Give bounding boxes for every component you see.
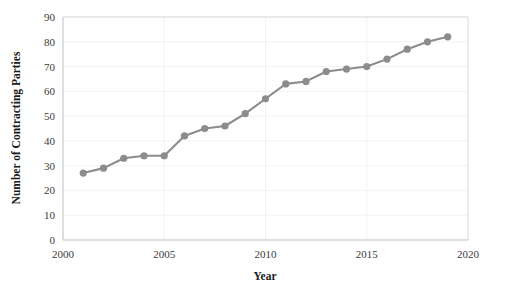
x-tick-label-2020: 2020 [457, 248, 480, 260]
y-tick-label-0: 0 [50, 234, 56, 246]
data-point-2006 [181, 132, 188, 139]
data-point-2005 [161, 152, 168, 159]
data-point-2013 [323, 68, 330, 75]
y-tick-label-90: 90 [44, 11, 56, 23]
data-point-2003 [120, 155, 127, 162]
y-tick-label-50: 50 [44, 110, 56, 122]
x-tick-label-2000: 2000 [52, 248, 75, 260]
x-axis-title: Year [254, 270, 277, 282]
y-tick-label-70: 70 [44, 61, 56, 73]
y-tick-label-60: 60 [44, 85, 56, 97]
line-chart: 0102030405060708090 20002005201020152020… [0, 0, 505, 292]
x-tick-label-2010: 2010 [255, 248, 278, 260]
data-point-2010 [262, 95, 269, 102]
data-point-2001 [80, 170, 87, 177]
data-point-2012 [302, 78, 309, 85]
x-tick-label-2015: 2015 [356, 248, 379, 260]
data-point-2015 [363, 63, 370, 70]
data-point-2018 [424, 38, 431, 45]
data-point-2002 [100, 165, 107, 172]
data-point-2011 [282, 80, 289, 87]
data-point-2014 [343, 65, 350, 72]
y-tick-label-80: 80 [44, 36, 56, 48]
data-point-2009 [242, 110, 249, 117]
y-tick-label-30: 30 [44, 160, 56, 172]
x-tick-label-2005: 2005 [153, 248, 176, 260]
data-point-2019 [444, 33, 451, 40]
y-tick-label-40: 40 [44, 135, 56, 147]
chart-canvas: 0102030405060708090 20002005201020152020… [0, 0, 505, 292]
data-point-2016 [383, 56, 390, 63]
data-point-2017 [404, 46, 411, 53]
data-point-2007 [201, 125, 208, 132]
data-point-2004 [140, 152, 147, 159]
y-tick-label-20: 20 [44, 184, 56, 196]
data-point-2008 [221, 122, 228, 129]
y-tick-label-10: 10 [44, 209, 56, 221]
y-axis-title: Number of Contracting Parties [10, 51, 23, 204]
